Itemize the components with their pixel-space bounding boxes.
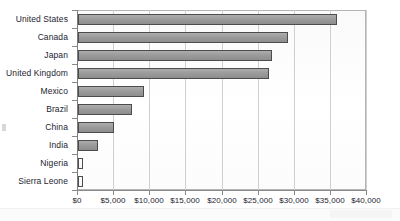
category-tick — [72, 28, 77, 29]
category-label: Japan — [44, 50, 68, 60]
category-label: Sierra Leone — [18, 176, 68, 186]
bar — [78, 50, 272, 61]
value-tick-label: $10,000 — [134, 196, 164, 205]
value-tick — [330, 190, 331, 195]
category-label: United States — [16, 14, 68, 24]
bar — [78, 158, 83, 169]
value-tick — [366, 190, 367, 195]
category-tick — [72, 172, 77, 173]
category-tick — [72, 136, 77, 137]
bottom-right-shade — [330, 210, 392, 218]
bar — [78, 68, 269, 79]
category-tick — [72, 154, 77, 155]
category-label: Mexico — [40, 86, 68, 96]
category-tick — [72, 82, 77, 83]
value-tick-label: $25,000 — [243, 196, 273, 205]
value-tick-label: $5,000 — [100, 196, 125, 205]
value-tick — [149, 190, 150, 195]
gridline — [294, 10, 295, 190]
bar — [78, 14, 337, 25]
category-label: United Kingdom — [6, 68, 68, 78]
value-tick — [258, 190, 259, 195]
category-tick — [72, 10, 77, 11]
value-tick — [113, 190, 114, 195]
category-tick — [72, 64, 77, 65]
category-tick — [72, 46, 77, 47]
value-tick-label: $40,000 — [351, 196, 381, 205]
category-tick — [72, 118, 77, 119]
bar — [78, 86, 144, 97]
category-label: Brazil — [46, 104, 68, 114]
value-tick-label: $0 — [72, 196, 81, 205]
value-tick-label: $15,000 — [170, 196, 200, 205]
bar — [78, 32, 288, 43]
page-edge-marker — [2, 124, 6, 131]
bar — [78, 104, 132, 115]
value-tick — [294, 190, 295, 195]
category-label: Canada — [38, 32, 68, 42]
value-tick-label: $20,000 — [207, 196, 237, 205]
bar — [78, 122, 114, 133]
gridline — [330, 10, 331, 190]
bar — [78, 176, 83, 187]
category-label: India — [49, 140, 68, 150]
value-tick — [222, 190, 223, 195]
value-tick-label: $30,000 — [279, 196, 309, 205]
gridline — [366, 10, 367, 190]
category-label: Nigeria — [40, 158, 68, 168]
bar-chart-figure: United StatesCanadaJapanUnited KingdomMe… — [0, 0, 400, 221]
category-label: China — [45, 122, 68, 132]
value-tick — [77, 190, 78, 195]
value-tick — [185, 190, 186, 195]
value-tick-label: $35,000 — [315, 196, 345, 205]
category-tick — [72, 100, 77, 101]
bar — [78, 140, 98, 151]
